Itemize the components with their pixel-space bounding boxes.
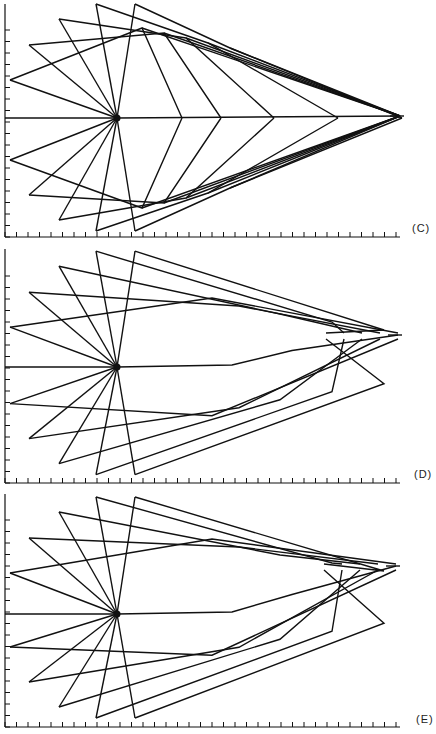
ray-path [29,570,378,682]
ray-path [29,292,117,367]
ray-path [10,80,117,118]
ray-path [230,116,400,188]
panel-label-e: (E) [416,713,434,725]
ray-path [230,48,400,116]
ray-path [10,367,117,404]
ray-path [10,573,117,614]
focal-point [114,611,121,618]
panel-label-d: (D) [414,468,432,480]
focal-point [114,115,121,122]
ray-path [59,339,362,464]
ray-path [135,251,384,333]
ray-path [10,614,117,647]
ray-path [117,497,135,614]
ray-diagram-figure [0,0,436,734]
ray-path [96,570,342,718]
ray-path [29,538,117,614]
ray-path [10,118,182,208]
ray-path [10,327,117,367]
ray-path [10,118,117,160]
ray-path [135,339,384,475]
ray-path [117,367,135,475]
ray-path [96,339,344,475]
panel-label-c: (C) [412,222,430,234]
ray-path [96,118,117,231]
ray-path [117,614,135,718]
ray-path [10,28,182,118]
ray-path [117,118,135,231]
axis-ray [117,116,400,118]
ray-path [29,45,117,118]
ray-path [10,539,396,573]
ray-path [59,118,117,220]
ray-path [59,118,274,220]
ray-path [117,4,135,118]
focal-point [114,364,121,371]
